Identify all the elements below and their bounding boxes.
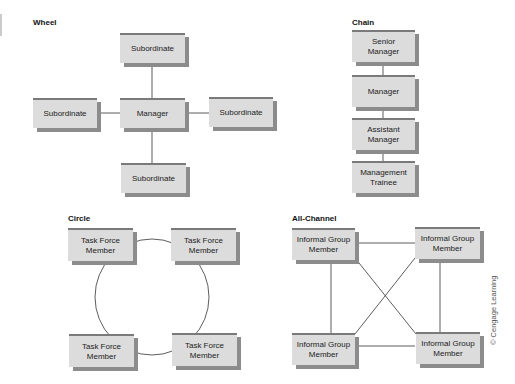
all-channel-node-top-right: Informal Group Member — [415, 227, 480, 259]
wheel-node-top: Subordinate — [120, 33, 185, 63]
circle-node-top-left: Task Force Member — [68, 228, 133, 261]
all-channel-title: All-Channel — [292, 214, 336, 223]
circle-node-top-right: Task Force Member — [171, 228, 236, 261]
wheel-node-right: Subordinate — [209, 97, 273, 127]
chain-node-senior-manager: Senior Manager — [352, 30, 415, 62]
copyright-credit: © Cengage Learning — [489, 276, 498, 345]
circle-node-bottom-right: Task Force Member — [172, 333, 237, 366]
all-channel-node-bottom-left: Informal Group Member — [292, 333, 355, 365]
chain-node-manager: Manager — [352, 75, 415, 107]
circle-node-bottom-left: Task Force Member — [69, 334, 134, 367]
circle-title: Circle — [68, 214, 90, 223]
wheel-title: Wheel — [33, 18, 57, 27]
chain-node-management-trainee: Management Trainee — [352, 161, 415, 193]
all-channel-node-top-left: Informal Group Member — [292, 228, 355, 260]
wheel-node-center: Manager — [120, 98, 185, 128]
all-channel-node-bottom-right: Informal Group Member — [416, 332, 480, 364]
wheel-node-left: Subordinate — [33, 98, 97, 128]
wheel-node-bottom: Subordinate — [121, 163, 186, 193]
connector-lines — [0, 0, 515, 384]
chain-title: Chain — [352, 18, 374, 27]
chain-node-assistant-manager: Assistant Manager — [352, 118, 415, 150]
